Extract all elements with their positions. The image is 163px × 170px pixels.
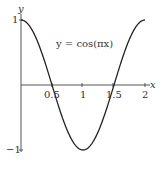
x-tick-label-0.5: 0.5 (44, 89, 60, 100)
y-tick-label-bottom: −1 (6, 144, 21, 155)
chart: y x 1 −1 0.5 1 1.5 2 y = cos(πx) (0, 0, 163, 170)
y-tick-label-top: 1 (12, 14, 18, 25)
y-axis-label: y (17, 3, 24, 14)
x-tick-label-1: 1 (80, 89, 86, 100)
x-tick-label-2: 2 (142, 89, 148, 100)
equation-annotation: y = cos(πx) (55, 38, 113, 49)
x-tick-label-1.5: 1.5 (106, 89, 122, 100)
x-axis-label: x (150, 79, 156, 90)
